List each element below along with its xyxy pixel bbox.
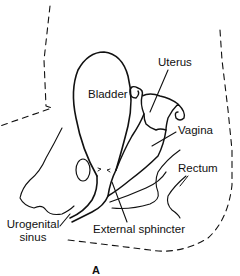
- body-outline-right: [68, 30, 232, 251]
- leader-vagina: [152, 132, 176, 146]
- uterus-shape: [130, 87, 184, 130]
- pelvic-outline: [20, 128, 74, 215]
- anatomy-diagram: Bladder Uterus Vagina Rectum Urogenital …: [0, 0, 240, 276]
- vagina-wall-left: [116, 114, 144, 170]
- leader-uterus: [150, 70, 168, 112]
- label-uterus: Uterus: [158, 56, 192, 69]
- label-vagina: Vagina: [178, 124, 213, 137]
- obturator-oval: [76, 159, 90, 181]
- label-rectum: Rectum: [178, 162, 218, 175]
- label-urogenital-sinus-line1: Urogenital: [2, 218, 64, 231]
- body-outline-left: [0, 6, 52, 126]
- rectum-outline: [112, 150, 180, 209]
- vagina-wall-right: [108, 130, 166, 196]
- label-bladder: Bladder: [88, 88, 128, 101]
- sphincter-mark-right: [107, 169, 110, 172]
- label-urogenital-sinus: Urogenital sinus: [2, 218, 64, 244]
- panel-letter: A: [92, 264, 100, 276]
- sphincter-mark-left: [98, 168, 101, 171]
- bladder-shape: [73, 52, 131, 176]
- label-external-sphincter: External sphincter: [93, 223, 185, 236]
- label-urogenital-sinus-line2: sinus: [2, 231, 64, 244]
